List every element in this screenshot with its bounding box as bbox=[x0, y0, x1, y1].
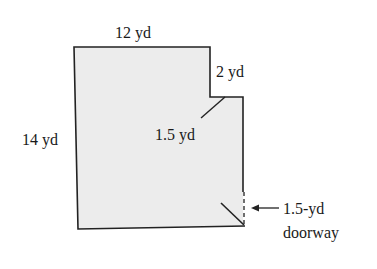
doorway-label-line1: 1.5-yd bbox=[283, 200, 324, 218]
inner-length-label: 1.5 yd bbox=[155, 126, 195, 144]
floor-plan-diagram: 12 yd 2 yd 14 yd 1.5 yd 1.5-yd doorway bbox=[0, 0, 377, 269]
left-length-label: 14 yd bbox=[22, 131, 58, 149]
doorway-label-line2: doorway bbox=[283, 224, 339, 242]
arrow-head-icon bbox=[251, 205, 259, 212]
top-length-label: 12 yd bbox=[115, 24, 151, 42]
notch-length-label: 2 yd bbox=[216, 63, 244, 81]
